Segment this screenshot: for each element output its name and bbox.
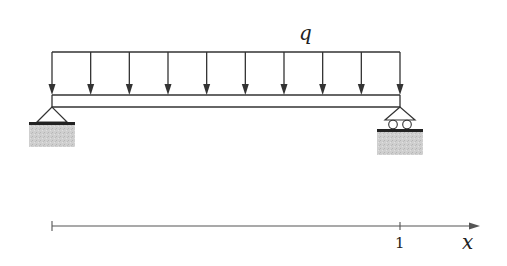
x-axis — [52, 221, 480, 231]
beam-diagram: q 1 x — [0, 0, 507, 266]
beam — [52, 95, 400, 107]
ground-bar — [29, 122, 75, 125]
arrowhead-icon — [281, 84, 288, 95]
roller-triangle — [385, 107, 415, 120]
right-support — [377, 107, 423, 155]
arrowhead-icon — [87, 84, 94, 95]
left-support — [29, 107, 75, 147]
arrowhead-icon — [165, 84, 172, 95]
roller-circle — [389, 120, 398, 129]
ground-hatch — [377, 132, 423, 155]
load-arrows — [49, 52, 404, 95]
ground-bar — [377, 129, 423, 132]
arrowhead-icon — [242, 84, 249, 95]
axis-tick-label: 1 — [395, 234, 405, 252]
arrowhead-icon — [203, 84, 210, 95]
arrowhead-icon — [319, 84, 326, 95]
arrowhead-icon — [49, 84, 56, 95]
arrowhead-icon — [397, 84, 404, 95]
distributed-load — [49, 52, 404, 95]
ground-hatch — [29, 125, 75, 147]
roller-circle — [403, 120, 412, 129]
axis-label: x — [462, 230, 473, 254]
arrowhead-icon — [358, 84, 365, 95]
pin-triangle — [37, 107, 67, 122]
axis-arrow-icon — [469, 223, 480, 230]
load-label: q — [299, 21, 312, 45]
arrowhead-icon — [126, 84, 133, 95]
